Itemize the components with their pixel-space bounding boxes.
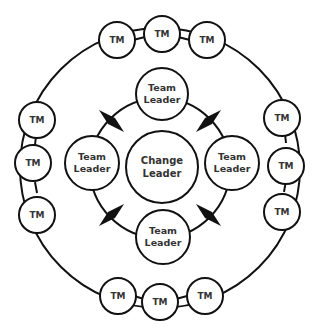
team-leader-node-right[interactable]: Team Leader [205, 136, 259, 190]
change-leader-label: Leader [143, 168, 182, 179]
team-leader-node-left[interactable]: Team Leader [65, 136, 119, 190]
team-member-node[interactable]: TM [142, 284, 178, 320]
team-leader-label: Team [148, 82, 176, 93]
team-member-node[interactable]: TM [19, 197, 55, 233]
team-member-label: TM [274, 207, 289, 217]
team-member-label: TM [199, 35, 214, 45]
team-member-label: TM [197, 291, 212, 301]
team-member-label: TM [109, 35, 124, 45]
team-leader-label: Leader [144, 94, 181, 105]
team-member-node[interactable]: TM [264, 100, 300, 136]
team-member-node[interactable]: TM [189, 22, 225, 58]
team-leader-node-top[interactable]: Team Leader [136, 68, 188, 120]
team-member-node[interactable]: TM [264, 194, 300, 230]
team-member-node[interactable]: TM [99, 22, 135, 58]
team-leader-label: Team [149, 225, 177, 236]
team-leader-label: Leader [74, 163, 111, 174]
team-member-label: TM [278, 161, 293, 171]
change-leader-label: Change [141, 155, 183, 166]
team-member-label: TM [25, 158, 40, 168]
team-leader-label: Leader [145, 237, 182, 248]
team-member-node[interactable]: TM [19, 102, 55, 138]
team-structure-diagram: Change Leader Team Leader Team Leader Te… [0, 0, 318, 336]
team-member-label: TM [110, 291, 125, 301]
team-leader-label: Team [218, 151, 246, 162]
team-member-label: TM [152, 297, 167, 307]
team-member-label: TM [29, 115, 44, 125]
team-member-node[interactable]: TM [144, 16, 180, 52]
team-member-node[interactable]: TM [15, 145, 51, 181]
team-member-label: TM [29, 210, 44, 220]
team-member-label: TM [154, 29, 169, 39]
team-member-node[interactable]: TM [268, 148, 304, 184]
team-member-label: TM [274, 113, 289, 123]
team-member-node[interactable]: TM [187, 278, 223, 314]
team-leader-node-bottom[interactable]: Team Leader [136, 210, 190, 264]
team-member-node[interactable]: TM [100, 278, 136, 314]
change-leader-node[interactable]: Change Leader [126, 131, 198, 203]
team-leader-label: Leader [214, 163, 251, 174]
team-leader-label: Team [78, 151, 106, 162]
